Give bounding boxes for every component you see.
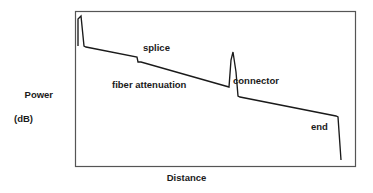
otdr-trace-plot xyxy=(0,0,373,193)
annotation-fiber-attenuation: fiber attenuation xyxy=(112,79,186,90)
y-axis-label-line1: Power xyxy=(25,89,54,100)
y-axis-label: Power (dB) xyxy=(14,77,53,149)
otdr-trace-figure: Power (dB) Distance splice fiber attenua… xyxy=(0,0,373,193)
y-axis-label-line2: (dB) xyxy=(14,113,53,125)
x-axis-label: Distance xyxy=(0,172,373,184)
annotation-splice: splice xyxy=(143,42,170,53)
annotation-end: end xyxy=(311,121,328,132)
annotation-connector: connector xyxy=(233,75,279,86)
